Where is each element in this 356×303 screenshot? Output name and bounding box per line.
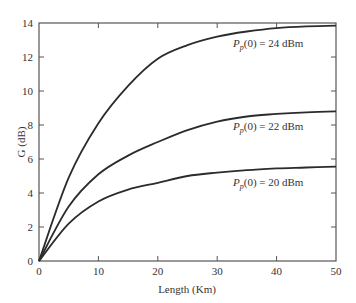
y-tick-label: 8 <box>28 119 34 131</box>
x-tick-label: 20 <box>152 265 164 277</box>
x-tick-label: 50 <box>331 265 343 277</box>
y-tick-label: 12 <box>22 51 33 63</box>
curve-label-2: Pp(0) = 20 dBm <box>232 176 304 191</box>
y-tick-label: 6 <box>28 153 34 165</box>
x-tick-label: 40 <box>271 265 283 277</box>
y-tick-label: 0 <box>28 255 34 267</box>
curve-label-0: Pp(0) = 24 dBm <box>232 37 304 52</box>
plot-border <box>39 23 336 261</box>
gain-vs-length-chart: 0102030405002468101214 Pp(0) = 24 dBmPp(… <box>0 0 356 303</box>
y-tick-label: 14 <box>22 17 34 29</box>
y-tick-label: 10 <box>22 85 34 97</box>
curve-label-1: Pp(0) = 22 dBm <box>232 120 304 135</box>
y-tick-label: 4 <box>28 187 34 199</box>
x-tick-label: 0 <box>36 265 42 277</box>
y-tick-label: 2 <box>28 221 34 233</box>
plot-frame <box>39 23 336 261</box>
axis-ticks: 0102030405002468101214 <box>22 17 342 277</box>
y-axis-title: G (dB) <box>15 126 28 157</box>
x-axis-title: Length (Km) <box>158 283 216 296</box>
curve-series-0 <box>39 26 336 261</box>
x-tick-label: 10 <box>93 265 105 277</box>
curves <box>39 26 336 261</box>
x-tick-label: 30 <box>212 265 224 277</box>
